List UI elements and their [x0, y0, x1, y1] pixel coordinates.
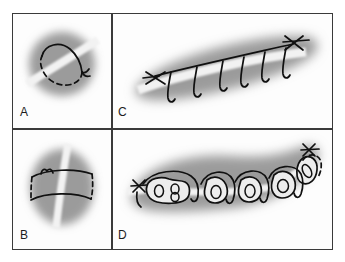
panel-label-d: D — [118, 229, 127, 241]
lobule-1 — [146, 178, 189, 204]
panel-label-b: B — [20, 229, 28, 241]
lobule-4 — [271, 171, 295, 198]
panel-label-c: C — [118, 106, 127, 118]
panel-d — [113, 130, 332, 249]
figure-container: A B — [0, 0, 345, 262]
lobule-5 — [297, 157, 317, 184]
panel-c — [113, 14, 332, 128]
panel-label-a: A — [20, 106, 28, 118]
